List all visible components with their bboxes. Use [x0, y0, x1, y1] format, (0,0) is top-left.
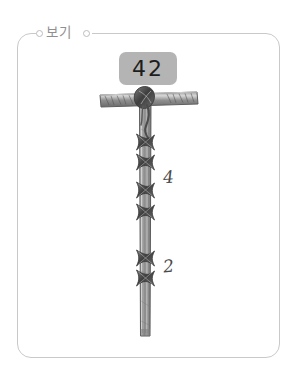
- caption-dot-left-icon: [36, 30, 43, 37]
- panel-caption: 보기: [46, 24, 71, 40]
- value-badge: 42: [119, 52, 177, 85]
- caption-dot-right-icon: [83, 30, 90, 37]
- lower-count-annotation: 2: [162, 255, 175, 276]
- upper-count-annotation: 4: [162, 167, 174, 188]
- value-badge-text: 42: [132, 58, 164, 80]
